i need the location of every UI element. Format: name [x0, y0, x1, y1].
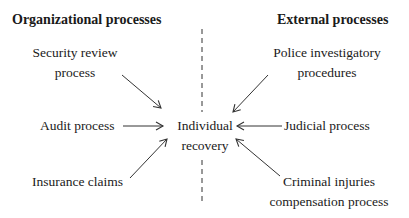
node-individual-recovery: Individual recovery [160, 116, 250, 156]
node-security-review-line1: Security review [20, 43, 130, 63]
node-individual-recovery-line2: recovery [160, 136, 250, 156]
node-police-line1: Police investigatory [262, 43, 392, 63]
node-audit-process: Audit process [40, 116, 115, 136]
node-police-investigatory: Police investigatory procedures [262, 43, 392, 83]
node-judicial-process: Judicial process [284, 116, 370, 136]
node-criminal-injuries: Criminal injuries compensation process [264, 172, 394, 212]
node-security-review-line2: process [20, 63, 130, 83]
node-criminal-line1: Criminal injuries [264, 172, 394, 192]
node-security-review: Security review process [20, 43, 130, 83]
node-individual-recovery-line1: Individual [160, 116, 250, 136]
heading-organizational: Organizational processes [12, 10, 161, 30]
node-criminal-line2: compensation process [264, 192, 394, 212]
heading-external: External processes [277, 10, 388, 30]
node-police-line2: procedures [262, 63, 392, 83]
node-insurance-claims: Insurance claims [32, 172, 123, 192]
